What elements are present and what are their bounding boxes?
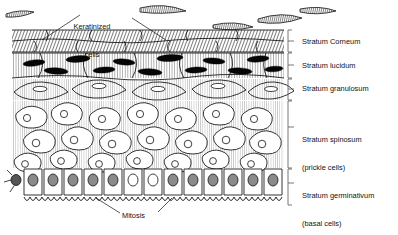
stratum-lucidum-band [12,53,284,80]
stratum-corneum-band [12,30,284,52]
label-stratum-spinosum-main: Stratum spinosum [302,135,362,144]
stratum-germinativum-band [24,169,282,201]
callout-keratinized-cells-line2: cells [62,50,122,59]
label-stratum-lucidum: Stratum lucidum [302,61,355,70]
callout-keratinized-cells-line1: Keratinized [62,22,122,31]
stratum-granulosum-band [12,79,294,100]
melanocyte [4,170,21,192]
callout-keratinized-cells: Keratinized cells [62,4,122,78]
label-stratum-germinativum: Stratum germinativum (basal cells) [302,173,374,235]
label-stratum-germinativum-main: Stratum germinativum [302,191,374,200]
callout-mitosis: Mitosis [122,211,145,220]
stratum-spinosum-band [12,101,284,172]
label-stratum-spinosum-sub: (prickle cells) [302,163,362,172]
shed-keratin-flakes [6,6,336,30]
label-stratum-corneum: Stratum Corneum [302,37,360,46]
label-stratum-granulosum: Stratum granulosum [302,84,369,93]
label-stratum-germinativum-sub: (basal cells) [302,219,374,228]
basement-membrane [24,197,282,201]
stratum-brackets [288,30,294,205]
epidermis-diagram: Keratinized cells Mitosis Stratum Corneu… [0,0,398,235]
